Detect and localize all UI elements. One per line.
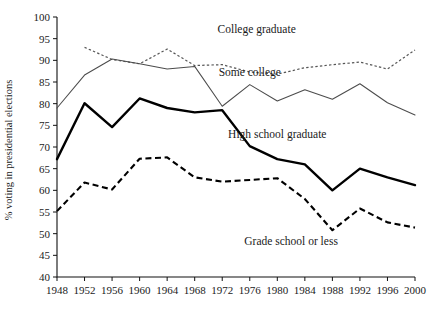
series-label-grade-school-or-less: Grade school or less (244, 235, 338, 247)
series-label-high-school-graduate: High school graduate (228, 128, 326, 141)
series-label-some-college: Some college (219, 66, 281, 79)
series-label-college-graduate: College graduate (218, 23, 296, 36)
x-tick-label: 1952 (74, 284, 96, 296)
x-tick-label: 1988 (321, 284, 344, 296)
x-tick-label: 1980 (266, 284, 289, 296)
y-tick-label: 65 (39, 163, 51, 175)
x-tick-label: 1984 (294, 284, 317, 296)
y-tick-label: 45 (39, 249, 51, 261)
x-tick-label: 1960 (129, 284, 152, 296)
series-line-high-school-graduate (57, 98, 415, 190)
axis-lines (57, 17, 415, 277)
y-tick-label: 40 (39, 271, 51, 283)
y-tick-label: 80 (39, 98, 51, 110)
chart-container: 4045505560657075808590951001948195219561… (0, 0, 436, 309)
x-tick-label: 2000 (404, 284, 427, 296)
x-tick-label: 1992 (349, 284, 371, 296)
y-tick-label: 100 (34, 11, 51, 23)
axes: 4045505560657075808590951001948195219561… (34, 11, 427, 296)
series-labels: College graduateSome collegeHigh school … (218, 23, 339, 247)
x-tick-label: 1956 (101, 284, 124, 296)
x-tick-label: 1976 (239, 284, 262, 296)
y-tick-label: 60 (39, 184, 51, 196)
y-tick-label: 55 (39, 206, 51, 218)
x-tick-label: 1968 (184, 284, 207, 296)
x-tick-label: 1964 (156, 284, 179, 296)
y-tick-label: 90 (39, 54, 51, 66)
y-tick-label: 70 (39, 141, 51, 153)
x-tick-label: 1996 (376, 284, 399, 296)
y-axis-title: % voting in presidential elections (3, 80, 14, 221)
x-tick-label: 1948 (46, 284, 69, 296)
y-tick-label: 85 (39, 76, 51, 88)
y-tick-label: 95 (39, 33, 51, 45)
line-chart: 4045505560657075808590951001948195219561… (0, 0, 436, 309)
y-tick-label: 50 (39, 228, 51, 240)
x-tick-label: 1972 (211, 284, 233, 296)
y-tick-label: 75 (39, 119, 51, 131)
